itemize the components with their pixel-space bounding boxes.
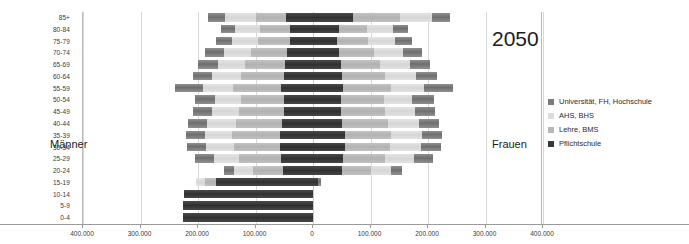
men-segment (241, 72, 285, 81)
men-segment (281, 154, 313, 163)
women-segment (410, 60, 431, 69)
pyramid-row (83, 118, 541, 129)
men-segment (205, 48, 223, 57)
legend-item[interactable]: Universität, FH, Hochschule (548, 95, 688, 108)
x-axis-tick (255, 224, 256, 228)
population-pyramid-chart: 85+80-8475-7970-7465-6960-6455-5950-5445… (0, 0, 689, 244)
pyramid-row (83, 24, 541, 35)
women-segment (313, 143, 345, 152)
men-segment (235, 25, 260, 34)
women-segment (415, 107, 435, 116)
men-segment (281, 84, 313, 93)
men-segment (196, 178, 205, 187)
women-segment (343, 154, 384, 163)
women-segment (313, 60, 341, 69)
chart-legend: Universität, FH, HochschuleAHS, BHSLehre… (548, 95, 688, 151)
women-segment (341, 107, 385, 116)
men-segment (216, 37, 232, 46)
men-segment (239, 154, 281, 163)
men-bar (205, 48, 313, 57)
men-segment (284, 95, 313, 104)
women-segment (343, 84, 390, 93)
women-segment (342, 119, 387, 128)
men-segment (224, 48, 251, 57)
women-bar (313, 178, 321, 187)
men-segment (258, 37, 290, 46)
y-axis-label-10-14: 10-14 (0, 189, 70, 200)
men-segment (232, 37, 257, 46)
x-axis-tick-label: 400.000 (530, 230, 554, 237)
y-axis-label-20-24: 20-24 (0, 165, 70, 176)
women-segment (403, 48, 423, 57)
pyramid-row (83, 200, 541, 211)
legend-item[interactable]: Pflichtschule (548, 137, 688, 150)
y-axis-label-50-54: 50-54 (0, 94, 70, 105)
men-bar (224, 166, 313, 175)
women-bar (313, 72, 437, 81)
women-segment (318, 178, 321, 187)
y-axis-age-labels: 85+80-8475-7970-7465-6960-6455-5950-5445… (0, 12, 76, 224)
women-segment (393, 25, 409, 34)
men-segment (260, 25, 290, 34)
men-bar (196, 178, 313, 187)
x-axis-tick-label: 100.000 (358, 230, 382, 237)
legend-item[interactable]: Lehre, BMS (548, 123, 688, 136)
women-segment (422, 131, 442, 140)
women-bar (313, 25, 408, 34)
men-bar (188, 119, 313, 128)
x-axis-tick (197, 224, 198, 228)
plot-area (82, 12, 542, 224)
men-segment (221, 25, 235, 34)
men-segment (282, 119, 313, 128)
men-segment (284, 107, 313, 116)
men-segment (239, 107, 283, 116)
x-axis-tick-label: 100.000 (243, 230, 267, 237)
men-segment (205, 131, 233, 140)
men-segment (198, 60, 218, 69)
x-axis-line (0, 224, 689, 225)
women-bar (313, 154, 433, 163)
men-segment (193, 107, 212, 116)
pyramid-row (83, 12, 541, 23)
women-segment (313, 72, 342, 81)
x-axis-tick-label: 300.000 (128, 230, 152, 237)
x-axis-tick (427, 224, 428, 228)
women-segment (313, 13, 353, 22)
men-segment (232, 131, 279, 140)
women-segment (400, 13, 432, 22)
y-axis-label-70-74: 70-74 (0, 47, 70, 58)
pyramid-row (83, 142, 541, 153)
men-segment (215, 95, 241, 104)
men-segment (224, 166, 234, 175)
legend-swatch-icon (548, 113, 554, 119)
women-segment (339, 48, 374, 57)
y-axis-label-85plus: 85+ (0, 12, 70, 23)
pyramid-row (83, 71, 541, 82)
y-axis-label-75-79: 75-79 (0, 36, 70, 47)
women-segment (421, 143, 442, 152)
men-segment (280, 143, 313, 152)
women-segment (419, 119, 439, 128)
men-bar (221, 25, 313, 34)
pyramid-row (83, 106, 541, 117)
men-segment (233, 84, 281, 93)
women-segment (367, 25, 393, 34)
women-segment (313, 154, 343, 163)
men-segment (218, 60, 246, 69)
men-bar (183, 201, 313, 210)
women-segment (384, 95, 413, 104)
women-segment (391, 84, 424, 93)
legend-item[interactable]: AHS, BHS (548, 109, 688, 122)
men-segment (183, 201, 313, 210)
men-segment (290, 37, 313, 46)
men-segment (287, 48, 313, 57)
men-bar (183, 213, 313, 222)
men-segment (290, 25, 313, 34)
x-axis-tick (140, 224, 141, 228)
legend-label: AHS, BHS (559, 111, 594, 120)
legend-label: Universität, FH, Hochschule (559, 97, 652, 106)
men-segment (285, 60, 313, 69)
women-segment (342, 72, 385, 81)
women-segment (412, 95, 433, 104)
women-segment (313, 84, 343, 93)
